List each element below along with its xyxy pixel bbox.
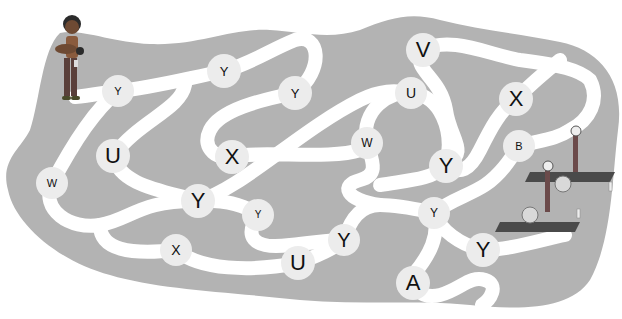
node-letter: X — [171, 243, 180, 257]
letter-node[interactable]: A — [396, 266, 430, 300]
node-letter: Y — [114, 86, 121, 97]
letter-node[interactable]: U — [96, 139, 130, 173]
node-letter: W — [47, 178, 57, 189]
node-letter: Y — [337, 230, 350, 250]
letter-node[interactable]: X — [215, 140, 249, 174]
node-letter: U — [290, 252, 306, 274]
letter-node[interactable]: X — [160, 234, 192, 266]
node-letter: Y — [255, 210, 262, 220]
node-letter: Y — [430, 207, 438, 219]
letter-node[interactable]: Y — [242, 199, 274, 231]
letter-node[interactable]: Y — [207, 54, 241, 88]
node-letter: V — [416, 39, 431, 61]
letter-node[interactable]: Y — [466, 233, 500, 267]
letter-node[interactable]: V — [406, 33, 440, 67]
node-letter: Y — [291, 87, 300, 100]
letter-node[interactable]: W — [351, 127, 383, 159]
node-letter: A — [406, 272, 421, 294]
node-letter: Y — [439, 155, 454, 177]
node-letter: U — [406, 86, 416, 100]
letter-node[interactable]: Y — [181, 184, 215, 218]
node-letter: B — [515, 141, 522, 152]
letter-node[interactable]: Y — [328, 224, 360, 256]
letter-node[interactable]: X — [499, 82, 533, 116]
letter-node[interactable]: Y — [102, 75, 134, 107]
maze-puzzle: YYYVUXBUXWWYYYYYXUYA — [0, 0, 622, 319]
node-letter: Y — [220, 65, 229, 78]
node-letter: U — [105, 145, 121, 167]
node-letter: W — [361, 137, 372, 149]
letter-node[interactable]: W — [36, 167, 68, 199]
letter-node[interactable]: U — [281, 246, 315, 280]
letter-node[interactable]: Y — [418, 197, 450, 229]
letter-node[interactable]: Y — [429, 149, 463, 183]
letter-node[interactable]: Y — [278, 76, 312, 110]
node-letter: X — [509, 88, 524, 110]
node-letter: Y — [476, 239, 491, 261]
node-letter: X — [225, 146, 240, 168]
letter-node[interactable]: U — [395, 77, 427, 109]
node-letter: Y — [191, 190, 206, 212]
letter-node[interactable]: B — [503, 130, 535, 162]
